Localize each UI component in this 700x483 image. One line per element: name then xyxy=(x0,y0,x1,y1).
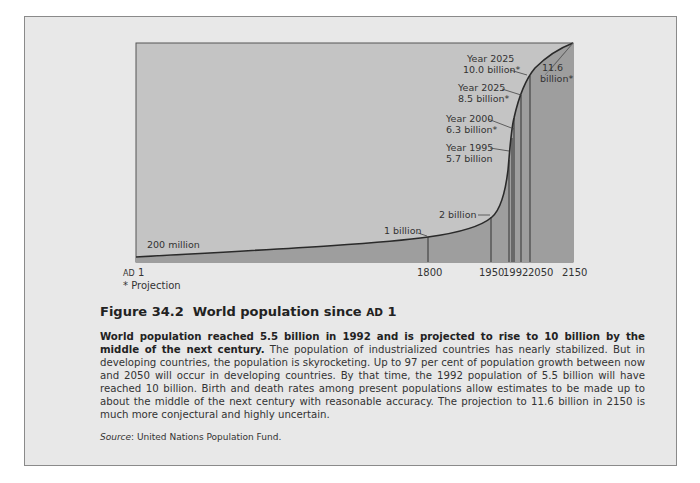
label-1995-year: Year 1995 xyxy=(445,142,493,153)
figure-number: Figure 34.2 xyxy=(100,304,184,319)
tick-1950: 1950 xyxy=(479,267,504,278)
population-chart: 200 million 1 billion 2 billion Year 199… xyxy=(0,0,700,300)
figure-title-year: 1 xyxy=(383,304,397,319)
caption-body: The population of industrialized countri… xyxy=(100,344,645,420)
label-2000-value: 6.3 billion* xyxy=(446,124,498,135)
source-label: Source xyxy=(100,432,131,442)
label-2b: 2 billion xyxy=(439,209,477,220)
figure-title-ad: AD xyxy=(366,306,383,318)
figure-title-text: World population since xyxy=(193,304,366,319)
label-2000-year: Year 2000 xyxy=(445,113,493,124)
tick-2050: 2050 xyxy=(528,267,553,278)
tick-ad: AD xyxy=(123,269,135,278)
tick-1800: 1800 xyxy=(417,267,442,278)
label-2150-unit: billion* xyxy=(540,73,573,84)
figure-source: Source: United Nations Population Fund. xyxy=(100,432,281,442)
label-2025-85-year: Year 2025 xyxy=(457,82,505,93)
source-text: : United Nations Population Fund. xyxy=(131,432,281,442)
figure-title: Figure 34.2 World population since AD 1 xyxy=(100,304,397,319)
projection-note: * Projection xyxy=(123,280,181,291)
label-2025-10-year: Year 2025 xyxy=(466,53,514,64)
tick-2150: 2150 xyxy=(562,267,587,278)
label-200m: 200 million xyxy=(147,239,200,250)
label-2025-85-value: 8.5 billion* xyxy=(458,93,510,104)
label-2150-value: 11.6 xyxy=(542,62,563,73)
figure-caption: World population reached 5.5 billion in … xyxy=(100,330,645,421)
label-1b: 1 billion xyxy=(384,225,422,236)
tick-1: 1 xyxy=(138,267,144,278)
tick-1992: 1992 xyxy=(503,267,528,278)
label-2025-10-value: 10.0 billion* xyxy=(463,64,521,75)
label-1995-value: 5.7 billion xyxy=(446,153,493,164)
